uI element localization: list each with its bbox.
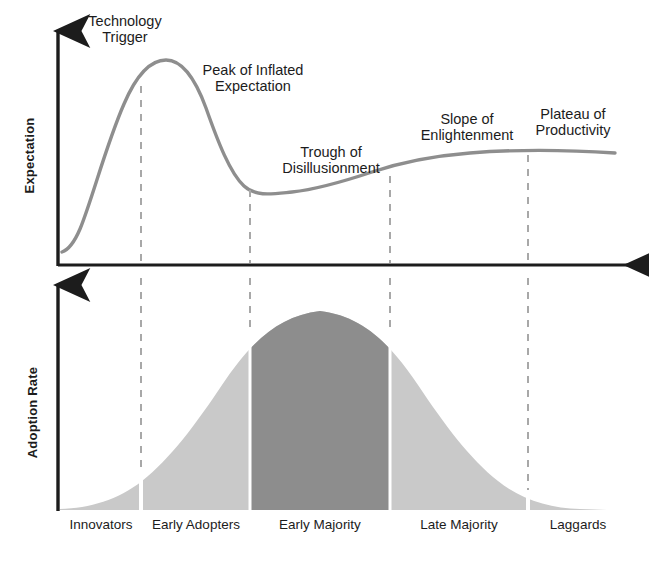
bottom-chart-adoption-curve bbox=[58, 278, 626, 511]
adoption-rate-axis-title: Adoption Rate bbox=[25, 343, 40, 483]
label-trough-of-disillusionment: Trough of Disillusionment bbox=[251, 144, 411, 176]
label-plateau-of-productivity: Plateau of Productivity bbox=[503, 106, 643, 138]
segment-label-early-majority: Early Majority bbox=[250, 517, 390, 532]
expectation-axis-title: Expectation bbox=[22, 96, 37, 216]
segment-label-late-majority: Late Majority bbox=[389, 517, 529, 532]
label-peak-of-inflated-expectation: Peak of Inflated Expectation bbox=[168, 62, 338, 94]
label-technology-trigger: Technology Trigger bbox=[45, 13, 205, 45]
segment-label-early-adopters: Early Adopters bbox=[126, 517, 266, 532]
segment-label-laggards: Laggards bbox=[518, 517, 638, 532]
